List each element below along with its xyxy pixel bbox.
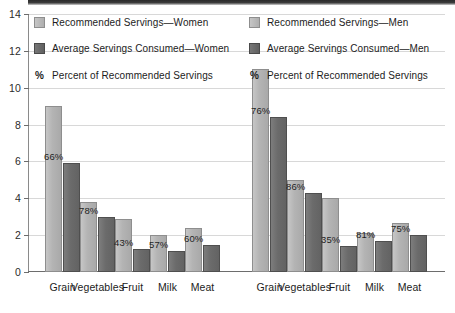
y-axis-tick-label: 0: [15, 266, 21, 278]
y-axis-tick-label: 4: [15, 192, 21, 204]
percent-label-women-fruit: 43%: [114, 237, 133, 248]
y-axis-tick-mark: [24, 14, 29, 15]
percent-label-men-grain: 76%: [251, 105, 270, 116]
legend-item-left-1: Recommended Servings—Women: [34, 17, 208, 28]
percent-label-women-milk: 57%: [149, 239, 168, 250]
legend-item-left-3: %Percent of Recommended Servings: [34, 70, 213, 81]
x-axis-label-women-meat: Meat: [191, 281, 215, 293]
bar-recommended-men-vegetables: [287, 180, 304, 272]
legend-label: Average Servings Consumed—Women: [52, 43, 229, 54]
percent-label-men-fruit: 35%: [321, 234, 340, 245]
x-axis-label-women-vegetables: Vegetables: [71, 281, 124, 293]
y-axis-tick-label: 8: [15, 119, 21, 131]
y-axis-tick-mark: [24, 51, 29, 52]
x-axis-label-men-meat: Meat: [398, 281, 422, 293]
legend-swatch-dark-icon: [34, 43, 45, 54]
percent-label-women-vegetables: 78%: [79, 205, 98, 216]
percent-label-men-milk: 81%: [356, 229, 375, 240]
bar-consumed-men-milk: [375, 241, 392, 272]
legend-label: Recommended Servings—Men: [267, 17, 408, 28]
legend-label: Average Servings Consumed—Men: [267, 43, 429, 54]
y-axis-tick-mark: [24, 235, 29, 236]
bar-consumed-men-meat: [410, 235, 427, 272]
legend-swatch-light-icon: [249, 17, 260, 28]
bar-consumed-women-milk: [168, 251, 185, 272]
legend-item-right-1: Recommended Servings—Men: [249, 17, 408, 28]
bar-consumed-women-vegetables: [98, 217, 115, 272]
legend-swatch-dark-icon: [249, 43, 260, 54]
percent-label-men-vegetables: 86%: [286, 181, 305, 192]
gridline: [28, 198, 445, 199]
y-axis-tick-mark: [24, 88, 29, 89]
legend-item-right-2: Average Servings Consumed—Men: [249, 43, 429, 54]
y-axis-tick-label: 6: [15, 155, 21, 167]
bar-consumed-men-vegetables: [305, 193, 322, 272]
scan-edge-band-mask: [0, 0, 28, 7]
bar-consumed-women-meat: [203, 245, 220, 272]
x-axis-label-men-fruit: Fruit: [329, 281, 351, 293]
scan-edge-band: [0, 0, 455, 5]
bar-consumed-women-fruit: [133, 249, 150, 272]
legend-swatch-light-icon: [34, 17, 45, 28]
y-axis-tick-mark: [24, 125, 29, 126]
gridline: [28, 14, 445, 15]
y-axis-tick-label: 10: [9, 82, 21, 94]
y-axis-tick-label: 2: [15, 229, 21, 241]
percent-symbol-icon: %: [249, 70, 260, 81]
y-axis-tick-mark: [24, 198, 29, 199]
bar-consumed-men-grain: [270, 117, 287, 272]
bar-recommended-women-grain: [45, 106, 62, 272]
legend-item-left-2: Average Servings Consumed—Women: [34, 43, 229, 54]
legend-label: Percent of Recommended Servings: [267, 70, 428, 81]
y-axis-tick-label: 14: [9, 8, 21, 20]
percent-label-women-meat: 60%: [184, 233, 203, 244]
bar-consumed-men-fruit: [340, 246, 357, 272]
gridline: [28, 161, 445, 162]
x-axis-label-men-milk: Milk: [365, 281, 384, 293]
x-axis-label-women-milk: Milk: [158, 281, 177, 293]
y-axis-tick-mark: [24, 272, 29, 273]
y-axis-line: [28, 14, 29, 272]
legend-label: Recommended Servings—Women: [52, 17, 208, 28]
gridline: [28, 125, 445, 126]
percent-symbol-icon: %: [34, 70, 45, 81]
chart-screenshot: 02468101214 66%78%43%57%60%76%86%35%81%7…: [0, 0, 455, 313]
x-axis-label-men-vegetables: Vegetables: [278, 281, 331, 293]
legend-item-right-3: %Percent of Recommended Servings: [249, 70, 428, 81]
bar-recommended-men-grain: [252, 69, 269, 272]
legend-label: Percent of Recommended Servings: [52, 70, 213, 81]
gridline: [28, 88, 445, 89]
x-axis-label-women-fruit: Fruit: [122, 281, 144, 293]
percent-label-men-meat: 75%: [391, 223, 410, 234]
bar-consumed-women-grain: [63, 163, 80, 272]
y-axis-tick-label: 12: [9, 45, 21, 57]
percent-label-women-grain: 66%: [44, 151, 63, 162]
y-axis-tick-mark: [24, 161, 29, 162]
